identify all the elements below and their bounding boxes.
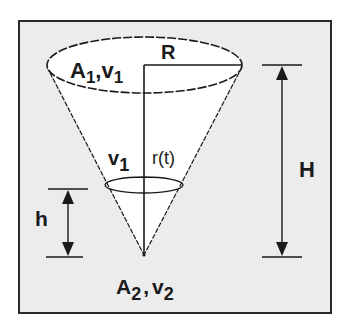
label-radius: R [161, 41, 176, 63]
label-outlet: A2,v2 [116, 275, 174, 304]
H-arrow-down-icon [276, 242, 288, 256]
label-h: h [35, 207, 48, 230]
h-arrow-down-icon [62, 242, 74, 256]
h-arrow-up-icon [62, 190, 74, 204]
H-arrow-up-icon [276, 66, 288, 80]
cone-diagram: A1,v1 R v1 r(t) H h A2,v2 [0, 0, 346, 328]
label-H: H [299, 157, 315, 182]
label-level-radius: r(t) [152, 148, 175, 168]
apex-point [142, 253, 145, 256]
